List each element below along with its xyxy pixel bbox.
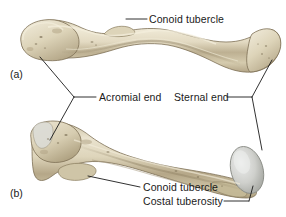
sternal-end-superior <box>247 29 281 72</box>
leader-sternal-fork <box>227 60 272 150</box>
label-conoid-tubercle-inferior: Conoid tubercle <box>143 182 218 193</box>
leader-conoid-bottom <box>88 176 140 187</box>
conoid-tubercle-inferior <box>58 163 96 180</box>
label-sternal-end: Sternal end <box>174 92 229 103</box>
label-acromial-end: Acromial end <box>99 92 161 103</box>
panel-marker-b: (b) <box>10 188 23 199</box>
label-conoid-tubercle-superior: Conoid tubercle <box>149 14 224 25</box>
label-costal-tuberosity: Costal tuberosity <box>143 196 223 207</box>
clavicle-superior-view <box>21 20 281 73</box>
panel-marker-a: (a) <box>10 69 23 80</box>
